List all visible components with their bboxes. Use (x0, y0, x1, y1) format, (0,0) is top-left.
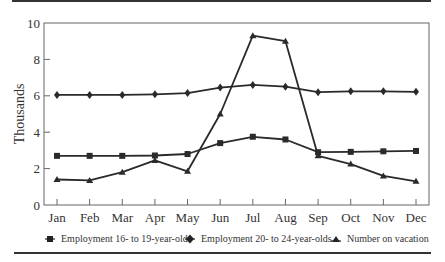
legend-item-vacation: Number on vacation (331, 233, 429, 244)
y-tick-label: 8 (34, 52, 41, 67)
diamond-marker (348, 87, 354, 95)
x-tick-label: Nov (372, 210, 395, 225)
diamond-marker (185, 89, 191, 97)
square-marker (87, 153, 93, 159)
x-tick-label: Dec (406, 210, 427, 225)
diamond-marker (380, 87, 386, 95)
legend-label: Employment 20- to 24-year-olds (201, 233, 332, 244)
y-tick-label: 0 (34, 198, 41, 213)
diamond-marker (54, 91, 60, 99)
legend-label: Number on vacation (347, 233, 429, 244)
legend-item-employment-16-19: Employment 16- to 19-year-olds (45, 233, 192, 244)
square-marker (282, 136, 288, 142)
diamond-marker (282, 83, 288, 91)
square-marker (217, 140, 223, 146)
x-axis: JanFebMarAprMayJunJulAugSepOctNovDec (48, 199, 426, 225)
y-tick-label: 6 (34, 88, 41, 103)
square-marker (380, 148, 386, 154)
x-tick-label: Jul (245, 210, 261, 225)
x-tick-label: Jan (48, 210, 66, 225)
x-tick-label: Aug (274, 210, 297, 225)
diamond-marker (413, 88, 419, 96)
y-tick-label: 2 (34, 161, 41, 176)
diamond-marker (217, 84, 223, 92)
square-marker (185, 151, 191, 157)
diamond-marker (315, 88, 321, 96)
square-marker (54, 153, 60, 159)
series-line (57, 36, 416, 182)
diamond-marker (152, 90, 158, 98)
y-axis: 0246810 (27, 16, 50, 213)
y-axis-title: Thousands (12, 84, 27, 145)
x-tick-label: Mar (111, 210, 133, 225)
x-tick-label: May (176, 210, 200, 225)
legend: Employment 16- to 19-year-olds Employmen… (0, 233, 445, 247)
square-marker-icon (45, 235, 55, 243)
line-chart: 0246810 JanFebMarAprMayJunJulAugSepOctNo… (0, 0, 445, 230)
diamond-marker (119, 91, 125, 99)
diamond-marker-icon (185, 234, 195, 244)
x-tick-label: Oct (341, 210, 360, 225)
square-marker (119, 153, 125, 159)
x-tick-label: Feb (80, 210, 100, 225)
square-marker (413, 148, 419, 154)
y-tick-label: 4 (34, 125, 41, 140)
triangle-marker (217, 111, 224, 117)
x-tick-label: Sep (308, 210, 328, 225)
diamond-marker (87, 91, 93, 99)
series-lines (54, 32, 420, 184)
x-tick-label: Jun (211, 210, 230, 225)
legend-item-employment-20-24: Employment 20- to 24-year-olds (185, 233, 332, 244)
diamond-marker (250, 81, 256, 89)
triangle-marker-icon (331, 235, 341, 243)
y-tick-label: 10 (27, 16, 40, 31)
series-line (57, 85, 416, 95)
series-line (57, 137, 416, 156)
legend-label: Employment 16- to 19-year-olds (61, 233, 192, 244)
bottom-rule (14, 252, 431, 254)
square-marker (348, 149, 354, 155)
x-tick-label: Apr (145, 210, 166, 225)
square-marker (250, 134, 256, 140)
